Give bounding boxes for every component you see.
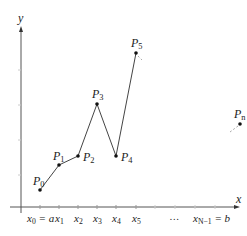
tick-label: x3 — [92, 212, 102, 226]
ellipsis: … — [170, 211, 179, 222]
tick-label: x2 — [73, 212, 83, 226]
y-axis-label: y — [17, 11, 24, 25]
point-label: P3 — [91, 87, 104, 102]
point-marker — [95, 102, 99, 106]
tick-label: x5 — [131, 212, 141, 226]
tick-label: x1 — [54, 212, 64, 226]
point-label: P4 — [120, 150, 133, 165]
y-axis-arrow-icon — [19, 26, 23, 32]
point-marker — [76, 154, 80, 158]
tick-label-last: xN−1 = b — [192, 212, 231, 226]
point-label: P0 — [32, 174, 45, 189]
polygonal-path-diagram: y x x0 = ax1x2x3x4x5…xN−1 = b P0P1P2P3P4… — [0, 0, 247, 236]
point-label: Pn — [233, 107, 246, 122]
tick-label: x4 — [111, 212, 121, 226]
point-marker — [114, 154, 118, 158]
point-label: P1 — [52, 149, 65, 164]
point-label: P2 — [82, 150, 95, 165]
tick-label: x0 = a — [26, 212, 55, 226]
points: P0P1P2P3P4P5Pn — [32, 36, 246, 192]
x-ticks: x0 = ax1x2x3x4x5…xN−1 = b — [26, 205, 231, 226]
point-marker — [238, 122, 242, 126]
point-marker — [134, 51, 138, 55]
point-label: P5 — [130, 36, 143, 51]
polygonal-path — [40, 53, 238, 190]
x-axis-label: x — [235, 192, 242, 206]
